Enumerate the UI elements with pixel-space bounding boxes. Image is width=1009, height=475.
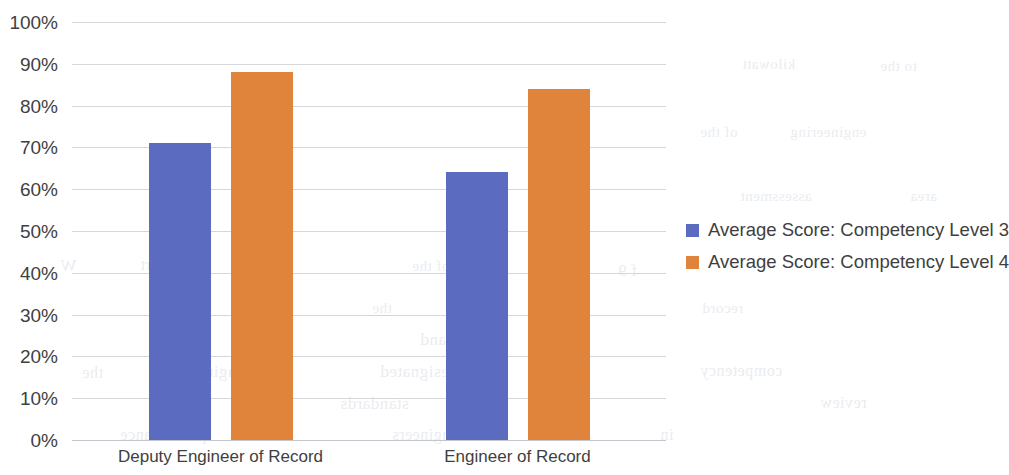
y-axis-tick-label: 20% [0, 347, 58, 366]
plot-area [72, 22, 666, 440]
y-axis-tick-label: 70% [0, 138, 58, 157]
legend-label: Average Score: Competency Level 3 [708, 221, 1009, 240]
x-axis-tick-label: Engineer of Record [444, 448, 590, 465]
legend-item: Average Score: Competency Level 4 [686, 248, 1009, 276]
legend-label: Average Score: Competency Level 4 [708, 253, 1009, 272]
bar [231, 72, 293, 440]
legend-swatch-icon [686, 256, 699, 269]
legend-item: Average Score: Competency Level 3 [686, 216, 1009, 244]
legend-swatch-icon [686, 224, 699, 237]
y-axis-tick-label: 50% [0, 222, 58, 241]
gridline [72, 440, 666, 441]
y-axis-tick-label: 100% [0, 13, 58, 32]
bar [446, 172, 508, 440]
bar [528, 89, 590, 440]
y-axis-tick-label: 10% [0, 389, 58, 408]
y-axis-tick-label: 60% [0, 180, 58, 199]
y-axis-tick-label: 0% [0, 431, 58, 450]
gridline [72, 64, 666, 65]
y-axis-tick-label: 30% [0, 305, 58, 324]
chart-legend: Average Score: Competency Level 3Average… [686, 216, 1009, 280]
gridline [72, 22, 666, 23]
y-axis-tick-label: 90% [0, 54, 58, 73]
bar [149, 143, 211, 440]
x-axis-category-labels: Deputy Engineer of RecordEngineer of Rec… [72, 448, 666, 475]
y-axis-tick-label: 40% [0, 263, 58, 282]
y-axis-tick-label: 80% [0, 96, 58, 115]
x-axis-tick-label: Deputy Engineer of Record [118, 448, 323, 465]
